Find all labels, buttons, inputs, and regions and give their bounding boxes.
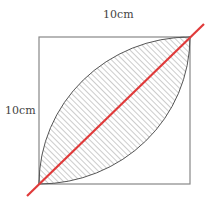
- left-dimension-label: 10cm: [4, 105, 37, 117]
- top-dimension-label: 10cm: [102, 9, 135, 21]
